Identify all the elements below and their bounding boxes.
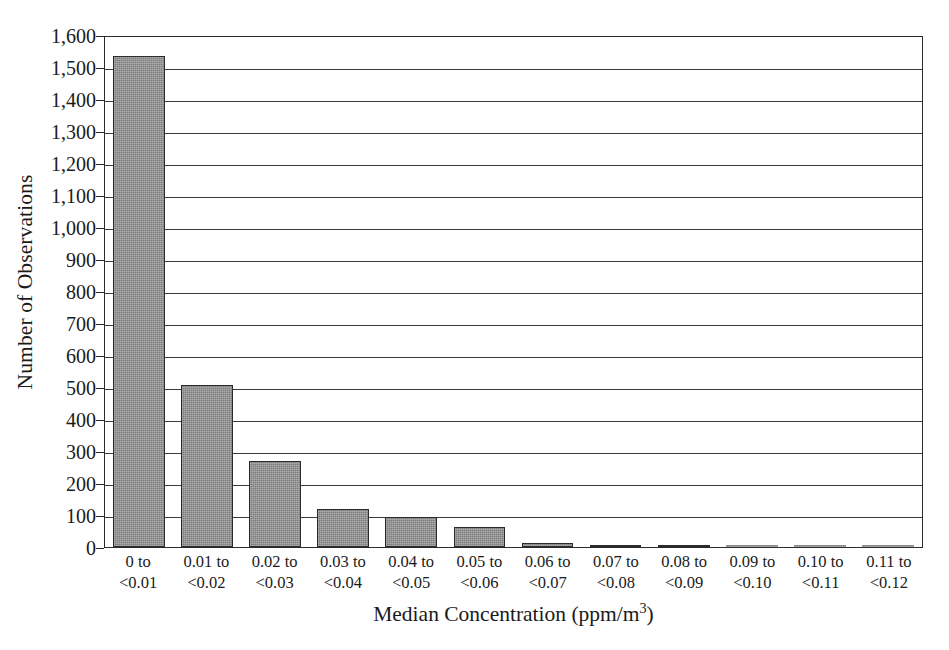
x-axis-tick-label: 0.03 to<0.04 [309,551,377,597]
bars-layer [105,37,922,547]
bar[interactable] [862,545,914,547]
x-axis-tick-label-line: <0.01 [104,572,172,593]
y-axis-tick-label: 1,300 [40,122,96,142]
y-axis-tick-mark [96,132,104,133]
y-axis-tick-marks [96,36,104,548]
y-axis-tick-label: 200 [40,474,96,494]
y-axis-tick-label: 1,200 [40,154,96,174]
x-axis-tick-label-line: <0.04 [309,572,377,593]
y-axis-tick-mark [96,100,104,101]
x-axis-tick-label-line: 0.05 to [445,551,513,572]
bar-slot [445,37,513,547]
x-axis-tick-label-line: 0.06 to [514,551,582,572]
y-axis-tick-mark [96,484,104,485]
y-axis-tick-mark [96,164,104,165]
x-axis-tick-label-line: 0.11 to [855,551,923,572]
x-axis-title-tail: ) [647,602,654,626]
bar-slot [718,37,786,547]
x-axis-tick-label: 0.08 to<0.09 [650,551,718,597]
bar-slot [105,37,173,547]
x-axis-title-base: Median Concentration (ppm/m [373,602,639,626]
x-axis-title-exponent: 3 [640,600,647,616]
y-axis-tick-mark [96,388,104,389]
x-axis-tick-label: 0 to<0.01 [104,551,172,597]
y-axis-tick-labels: 1,6001,5001,4001,3001,2001,1001,00090080… [40,36,96,548]
y-axis-tick-mark [96,324,104,325]
bar[interactable] [726,545,778,547]
y-axis-tick-label: 1,600 [40,26,96,46]
bar[interactable] [385,517,437,547]
x-axis-tick-label: 0.01 to<0.02 [172,551,240,597]
x-axis-tick-label-line: <0.03 [241,572,309,593]
bar-slot [241,37,309,547]
histogram-chart: Number of Observations 1,6001,5001,4001,… [0,0,949,650]
y-axis-title: Number of Observations [8,12,42,552]
x-axis-tick-label-line: <0.10 [718,572,786,593]
y-axis-tick-mark [96,548,104,549]
y-axis-tick-mark [96,356,104,357]
plot-area [104,36,923,548]
y-axis-tick-label: 500 [40,378,96,398]
y-axis-tick-label: 900 [40,250,96,270]
x-axis-tick-label: 0.10 to<0.11 [787,551,855,597]
bar[interactable] [590,545,642,547]
y-axis-tick-label: 600 [40,346,96,366]
bar-slot [650,37,718,547]
bar[interactable] [113,56,165,547]
x-axis-tick-label: 0.06 to<0.07 [514,551,582,597]
x-axis-tick-label-line: <0.09 [650,572,718,593]
x-axis-tick-label: 0.07 to<0.08 [582,551,650,597]
x-axis-tick-label-line: 0.04 to [377,551,445,572]
y-axis-tick-mark [96,68,104,69]
y-axis-tick-mark [96,196,104,197]
y-axis-tick-label: 800 [40,282,96,302]
y-axis-tick-label: 1,500 [40,58,96,78]
x-axis-tick-label-line: <0.12 [855,572,923,593]
y-axis-tick-mark [96,228,104,229]
x-axis-tick-label-line: <0.07 [514,572,582,593]
y-axis-tick-mark [96,420,104,421]
y-axis-tick-mark [96,292,104,293]
x-axis-tick-label-line: <0.11 [787,572,855,593]
y-axis-tick-label: 1,000 [40,218,96,238]
bar-slot [173,37,241,547]
x-axis-tick-label-line: 0.09 to [718,551,786,572]
bar[interactable] [181,385,233,547]
bar[interactable] [522,543,574,547]
x-axis-tick-label-line: 0.02 to [241,551,309,572]
y-axis-tick-mark [96,452,104,453]
x-axis-tick-label: 0.05 to<0.06 [445,551,513,597]
x-axis-tick-label: 0.11 to<0.12 [855,551,923,597]
y-axis-tick-mark [96,260,104,261]
y-axis-tick-label: 1,400 [40,90,96,110]
bar[interactable] [454,527,506,547]
bar-slot [854,37,922,547]
x-axis-tick-label-line: <0.08 [582,572,650,593]
bar[interactable] [249,461,301,547]
x-axis-title: Median Concentration (ppm/m3) [104,602,923,627]
x-axis-tick-label-line: 0.08 to [650,551,718,572]
x-axis-tick-labels: 0 to<0.010.01 to<0.020.02 to<0.030.03 to… [104,551,923,597]
y-axis-tick-mark [96,516,104,517]
x-axis-tick-label: 0.04 to<0.05 [377,551,445,597]
x-axis-tick-label-line: <0.06 [445,572,513,593]
x-axis-tick-label-line: 0 to [104,551,172,572]
y-axis-tick-label: 400 [40,410,96,430]
y-axis-tick-mark [96,36,104,37]
bar-slot [513,37,581,547]
bar[interactable] [794,545,846,547]
x-axis-tick-label-line: 0.07 to [582,551,650,572]
y-axis-tick-label: 300 [40,442,96,462]
bar-slot [377,37,445,547]
bar[interactable] [317,509,369,547]
bar-slot [309,37,377,547]
x-axis-tick-label-line: 0.10 to [787,551,855,572]
bar-slot [582,37,650,547]
bar-slot [786,37,854,547]
x-axis-tick-label-line: 0.03 to [309,551,377,572]
x-axis-tick-label-line: 0.01 to [172,551,240,572]
bar[interactable] [658,545,710,547]
x-axis-tick-label-line: <0.05 [377,572,445,593]
y-axis-tick-label: 1,100 [40,186,96,206]
x-axis-tick-label-line: <0.02 [172,572,240,593]
